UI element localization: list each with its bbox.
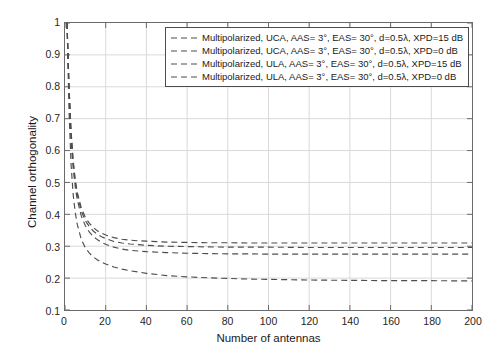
y-axis-title: Channel orthogonality xyxy=(26,77,38,267)
figure-canvas: 0.10.20.30.40.50.60.70.80.91 02040608010… xyxy=(0,0,504,361)
legend-item: Multipolarized, ULA, AAS= 3°, EAS= 30°, … xyxy=(170,70,463,83)
y-tick-label: 0.9 xyxy=(30,49,60,60)
legend-line-swatch xyxy=(170,58,198,70)
legend-item: Multipolarized, ULA, AAS= 3°, EAS= 30°, … xyxy=(170,57,463,70)
x-tick-label: 120 xyxy=(287,315,331,327)
x-axis-title: Number of antennas xyxy=(64,332,473,344)
x-tick-label: 180 xyxy=(410,315,454,327)
x-tick-label: 160 xyxy=(369,315,413,327)
legend-line-swatch xyxy=(170,45,198,57)
x-tick-label: 40 xyxy=(124,315,168,327)
x-tick-label: 0 xyxy=(42,315,86,327)
y-tick-label: 0.2 xyxy=(30,273,60,284)
legend-line-swatch xyxy=(170,71,198,83)
x-tick-label: 20 xyxy=(83,315,127,327)
x-tick-label: 140 xyxy=(328,315,372,327)
legend: Multipolarized, UCA, AAS= 3°, EAS= 30°, … xyxy=(165,27,469,87)
x-axis-tick-labels: 020406080100120140160180200 xyxy=(64,315,473,331)
legend-item-label: Multipolarized, ULA, AAS= 3°, EAS= 30°, … xyxy=(202,58,462,70)
legend-item-label: Multipolarized, ULA, AAS= 3°, EAS= 30°, … xyxy=(202,71,456,83)
x-tick-label: 80 xyxy=(206,315,250,327)
legend-item: Multipolarized, UCA, AAS= 3°, EAS= 30°, … xyxy=(170,31,463,44)
x-tick-label: 200 xyxy=(451,315,495,327)
y-tick-label: 1 xyxy=(30,17,60,28)
x-tick-label: 100 xyxy=(247,315,291,327)
legend-item: Multipolarized, UCA, AAS= 3°, EAS= 30°, … xyxy=(170,44,463,57)
legend-line-swatch xyxy=(170,32,198,44)
x-tick-label: 60 xyxy=(165,315,209,327)
legend-item-label: Multipolarized, UCA, AAS= 3°, EAS= 30°, … xyxy=(202,32,463,44)
legend-item-label: Multipolarized, UCA, AAS= 3°, EAS= 30°, … xyxy=(202,45,458,57)
